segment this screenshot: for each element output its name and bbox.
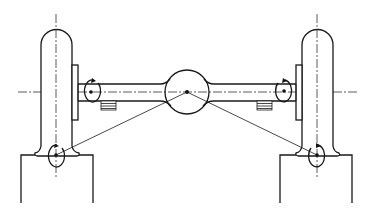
left-hub-flange: [72, 65, 78, 120]
right-spring-pad: [257, 101, 272, 110]
left-ground-block: [21, 155, 93, 203]
left-hub-rotation-arrow: [84, 78, 100, 102]
right-ground-block: [280, 155, 352, 203]
left-spring-pad: [101, 101, 116, 110]
right-hub-flange: [296, 65, 302, 120]
axle-diagram: [0, 0, 374, 211]
right-hub-rotation-arrow: [276, 78, 292, 102]
diagram-canvas: [0, 0, 374, 211]
